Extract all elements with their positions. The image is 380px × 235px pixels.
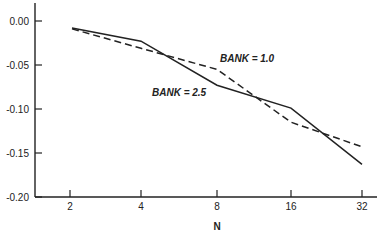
series-label-bank-2-5: BANK = 2.5 [152,87,207,98]
line-chart: 0.00-0.05-0.10-0.15-0.20 2481632 BANK = … [0,0,380,235]
x-tick-label: 8 [214,201,220,212]
y-tick-label: -0.05 [6,60,29,71]
series-line-bank-2-5 [72,28,362,164]
x-tick-label: 4 [138,201,144,212]
x-tick-label: 16 [285,201,297,212]
y-tick-label: -0.15 [6,148,29,159]
x-tick-label: 2 [67,201,73,212]
axes [35,3,377,197]
x-ticks: 2481632 [67,190,368,212]
series-label-bank-1-0: BANK = 1.0 [220,53,275,64]
y-ticks: 0.00-0.05-0.10-0.15-0.20 [6,16,42,203]
y-tick-label: -0.10 [6,104,29,115]
series-lines [72,28,362,164]
x-tick-label: 32 [356,201,368,212]
y-tick-label: 0.00 [10,16,30,27]
x-axis-title: N [213,221,220,232]
y-tick-label: -0.20 [6,192,29,203]
